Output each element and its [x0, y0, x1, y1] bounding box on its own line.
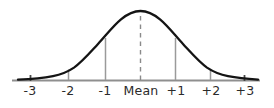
axis-label-minus-2: -2	[62, 84, 75, 98]
axis-label-minus-1: -1	[99, 84, 112, 98]
axis-label-plus-1: +1	[167, 84, 186, 98]
axis-label-minus-3: -3	[24, 84, 37, 98]
normal-distribution-figure: -3 -2 -1 Mean +1 +2 +3	[0, 0, 274, 108]
axis-label-plus-3: +3	[236, 84, 255, 98]
axis-label-mean: Mean	[124, 84, 159, 98]
axis-label-plus-2: +2	[202, 84, 221, 98]
normal-curve-path	[18, 11, 258, 80]
